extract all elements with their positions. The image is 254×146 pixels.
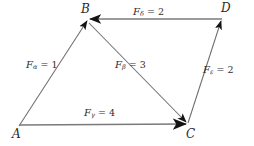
vertex-label-D: D (221, 2, 231, 14)
force-symbol-beta: F (115, 59, 122, 70)
force-label-delta: Fδ = 2 (133, 7, 164, 18)
force-symbol-alpha: F (26, 59, 33, 70)
force-symbol-epsilon: F (203, 64, 210, 75)
force-label-epsilon: Fε = 2 (203, 65, 234, 76)
force-subscript-beta: β (122, 63, 126, 71)
force-magnitude-beta: 3 (140, 59, 146, 70)
force-label-gamma: Fγ = 4 (84, 108, 115, 119)
force-equals-delta: = (147, 6, 155, 17)
force-equals-epsilon: = (216, 64, 224, 75)
vertex-label-A: A (12, 128, 21, 140)
force-equals-beta: = (129, 59, 137, 70)
force-magnitude-epsilon: 2 (227, 64, 233, 75)
force-magnitude-delta: 2 (158, 6, 164, 17)
force-subscript-alpha: α (33, 63, 37, 71)
force-label-alpha: Fα = 1 (26, 60, 57, 71)
force-diagram: A B C D Fα = 1 Fβ = 3 Fγ = 4 Fδ = 2 Fε =… (0, 0, 254, 146)
vector-line-gamma (19, 124, 186, 125)
force-subscript-gamma: γ (91, 111, 95, 119)
force-symbol-gamma: F (84, 107, 91, 118)
force-symbol-delta: F (133, 6, 140, 17)
vertex-label-B: B (81, 3, 90, 15)
force-subscript-epsilon: ε (210, 68, 214, 76)
force-magnitude-gamma: 4 (109, 107, 115, 118)
force-equals-gamma: = (98, 107, 106, 118)
force-label-beta: Fβ = 3 (115, 60, 146, 71)
force-equals-alpha: = (40, 59, 48, 70)
vertex-label-C: C (186, 128, 195, 140)
force-magnitude-alpha: 1 (51, 59, 57, 70)
vector-line-alpha (19, 21, 87, 126)
force-subscript-delta: δ (140, 10, 144, 18)
